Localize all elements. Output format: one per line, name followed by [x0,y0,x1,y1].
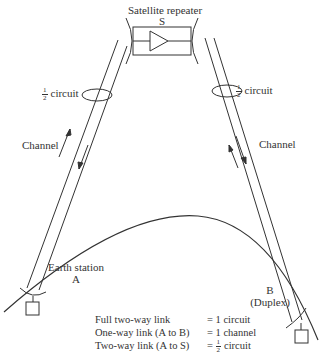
legend-row-full-two-way: Full two-way link= 1 circuit [95,313,256,326]
legend-value: = 1 circuit [207,314,250,325]
frac-den: 2 [236,92,242,99]
satellite-left-dish [126,18,132,64]
legend-row-one-way: One-way link (A to B)= 1 channel [95,326,256,339]
station-a-name: Earth station [46,261,106,273]
station-a-dish [20,288,46,295]
station-a-letter: A [70,273,82,285]
legend-label: One-way link (A to B) [95,326,207,339]
legend-row-two-way-a-s: Two-way link (A to S)= 12circuit [95,339,256,354]
station-a-terminal [26,302,39,315]
satellite-letter: S [155,15,169,27]
legend-equals: = [207,340,213,351]
station-b-mode: (Duplex) [245,296,295,308]
legend-label: Full two-way link [95,313,207,326]
legend: Full two-way link= 1 circuit One-way lin… [95,313,256,354]
legend-value: = 1 channel [207,327,256,338]
station-b-terminal [295,330,308,343]
frac-den: 2 [42,95,48,102]
right-half-circuit-label: 12circuit [236,84,273,99]
satellite-right-dish [192,18,198,64]
left-circuit-ellipse [82,89,112,101]
right-channel-label: Channel [259,138,296,150]
circuit-text: circuit [245,84,273,96]
station-b-letter: B [264,284,276,296]
legend-value: circuit [224,340,251,351]
frac-den: 2 [216,347,222,354]
legend-label: Two-way link (A to S) [95,339,207,352]
amplifier-triangle [150,31,168,51]
left-channel-label: Channel [22,139,59,151]
circuit-text: circuit [51,87,79,99]
left-half-circuit-label: 12circuit [42,87,79,102]
